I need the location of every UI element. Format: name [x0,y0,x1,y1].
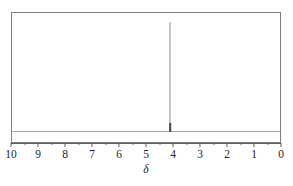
x-tick-major [253,143,254,147]
x-tick-major [37,143,38,147]
x-tick-label: 2 [224,148,230,160]
x-tick-major [118,143,119,147]
x-tick-minor [159,143,160,145]
spectrum-peak [169,22,170,132]
x-tick-major [91,143,92,147]
x-tick-label: 8 [62,148,68,160]
plot-area [12,13,280,142]
x-tick-minor [186,143,187,145]
x-tick-major [199,143,200,147]
x-tick-major [145,143,146,147]
nmr-spectrum-figure: 109876543210 δ [0,0,293,186]
x-tick-minor [24,143,25,145]
spectrum-peak-base [169,123,171,132]
x-tick-label: 7 [89,148,95,160]
x-tick-minor [267,143,268,145]
x-tick-major [64,143,65,147]
x-tick-label: 6 [116,148,122,160]
x-tick-minor [213,143,214,145]
x-tick-minor [132,143,133,145]
x-tick-label: 3 [197,148,203,160]
x-tick-minor [240,143,241,145]
x-tick-label: 4 [170,148,176,160]
x-tick-minor [78,143,79,145]
x-tick-minor [105,143,106,145]
x-tick-major [10,143,11,147]
x-tick-label: 10 [5,148,17,160]
x-tick-major [226,143,227,147]
x-tick-label: 1 [251,148,257,160]
plot-frame [11,12,281,143]
spectrum-baseline [12,131,280,132]
x-tick-label: 0 [278,148,284,160]
x-tick-label: 5 [143,148,149,160]
x-tick-major [172,143,173,147]
x-tick-major [280,143,281,147]
x-axis: 109876543210 δ [11,143,281,186]
x-axis-title: δ [143,163,148,175]
x-tick-minor [51,143,52,145]
x-tick-label: 9 [35,148,41,160]
